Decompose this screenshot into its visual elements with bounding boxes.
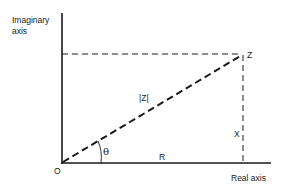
real-component-label: R (159, 152, 165, 162)
imaginary-component-label: X (234, 129, 240, 139)
angle-theta-label: θ (103, 147, 109, 157)
magnitude-label: |Z| (139, 93, 149, 103)
angle-arc (98, 141, 101, 163)
imaginary-axis-label: Imaginary axis (12, 15, 60, 37)
point-z-label: Z (247, 50, 252, 60)
magnitude-vector-dashed (63, 55, 242, 162)
origin-label: O (54, 166, 61, 176)
real-axis-label: Real axis (231, 173, 266, 183)
